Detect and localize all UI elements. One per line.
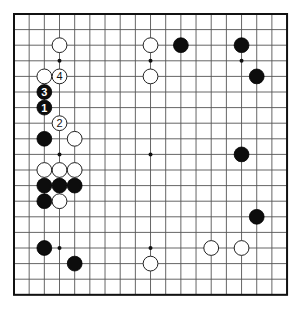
black-stone-move-3: 3 bbox=[37, 85, 52, 100]
black-stone bbox=[234, 147, 249, 162]
black-stone bbox=[67, 256, 82, 271]
black-stone-icon bbox=[67, 256, 82, 271]
white-stone bbox=[52, 194, 67, 209]
go-board: 4312 bbox=[0, 0, 298, 309]
black-stone-icon bbox=[234, 38, 249, 53]
black-stone bbox=[52, 178, 67, 193]
white-stone-icon bbox=[143, 256, 158, 271]
white-stone-icon bbox=[67, 131, 82, 146]
black-stone bbox=[37, 241, 52, 256]
black-stone-icon bbox=[249, 69, 264, 84]
black-stone-icon bbox=[37, 241, 52, 256]
star-point-icon bbox=[149, 152, 153, 156]
black-stone-icon bbox=[234, 147, 249, 162]
star-point-icon bbox=[58, 152, 62, 156]
star-point-icon bbox=[58, 59, 62, 63]
move-number-label: 1 bbox=[41, 102, 47, 114]
black-stone bbox=[37, 194, 52, 209]
star-point-icon bbox=[58, 246, 62, 250]
white-stone-move-2: 2 bbox=[52, 116, 67, 131]
go-board-diagram: 4312 bbox=[0, 0, 298, 309]
star-point-icon bbox=[149, 59, 153, 63]
white-stone bbox=[37, 163, 52, 178]
black-stone bbox=[249, 69, 264, 84]
star-point-icon bbox=[149, 246, 153, 250]
white-stone-move-4: 4 bbox=[52, 69, 67, 84]
move-number-label: 2 bbox=[56, 117, 62, 129]
black-stone bbox=[173, 38, 188, 53]
black-stone bbox=[37, 131, 52, 146]
white-stone bbox=[67, 131, 82, 146]
black-stone bbox=[37, 178, 52, 193]
move-number-label: 3 bbox=[41, 86, 47, 98]
black-stone-icon bbox=[249, 209, 264, 224]
white-stone-icon bbox=[234, 241, 249, 256]
black-stone-move-1: 1 bbox=[37, 100, 52, 115]
white-stone-icon bbox=[37, 163, 52, 178]
white-stone bbox=[204, 241, 219, 256]
white-stone-icon bbox=[143, 38, 158, 53]
white-stone bbox=[143, 69, 158, 84]
white-stone bbox=[234, 241, 249, 256]
white-stone bbox=[143, 38, 158, 53]
white-stone-icon bbox=[204, 241, 219, 256]
black-stone bbox=[234, 38, 249, 53]
star-point-icon bbox=[240, 59, 244, 63]
black-stone-icon bbox=[37, 178, 52, 193]
white-stone-icon bbox=[52, 38, 67, 53]
white-stone-icon bbox=[143, 69, 158, 84]
black-stone bbox=[67, 178, 82, 193]
white-stone-icon bbox=[52, 163, 67, 178]
black-stone bbox=[249, 209, 264, 224]
white-stone-icon bbox=[67, 163, 82, 178]
white-stone bbox=[52, 38, 67, 53]
move-number-label: 4 bbox=[56, 70, 62, 82]
white-stone-icon bbox=[52, 194, 67, 209]
white-stone bbox=[143, 256, 158, 271]
white-stone bbox=[52, 163, 67, 178]
black-stone-icon bbox=[52, 178, 67, 193]
white-stone-icon bbox=[37, 69, 52, 84]
black-stone-icon bbox=[37, 131, 52, 146]
black-stone-icon bbox=[67, 178, 82, 193]
white-stone bbox=[67, 163, 82, 178]
black-stone-icon bbox=[173, 38, 188, 53]
black-stone-icon bbox=[37, 194, 52, 209]
white-stone bbox=[37, 69, 52, 84]
